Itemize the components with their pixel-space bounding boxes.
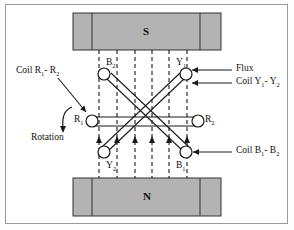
- south-pole-label: S: [143, 26, 149, 37]
- coil-r-leader: [58, 78, 86, 112]
- coil-r1-r2-annotation: Coil R1- R2: [16, 66, 59, 77]
- coil-r1-r2: [93, 117, 197, 126]
- terminal-b1-label: B1: [176, 161, 186, 172]
- figure-container: S N B2 Y1 Y2 B1 R1 R2 Coil R1- R2 Flux C…: [0, 0, 294, 230]
- rotation-arrow: [63, 107, 72, 128]
- terminal-r2-circle: [192, 115, 204, 127]
- terminal-b1-circle: [180, 146, 192, 158]
- flux-annotation: Flux: [236, 64, 253, 74]
- terminal-y1-circle: [180, 68, 192, 80]
- coil-b1-b2-annotation: Coil B1- B2: [236, 146, 279, 157]
- terminal-r1-label: R1: [74, 115, 84, 126]
- terminal-b2-label: B2: [106, 58, 116, 69]
- terminal-r2-label: R2: [205, 115, 215, 126]
- coil-y1-y2-annotation: Coil Y1- Y2: [236, 77, 280, 88]
- north-pole-label: N: [143, 191, 151, 202]
- terminal-b2-circle: [98, 68, 110, 80]
- rotation-annotation: Rotation: [31, 133, 64, 143]
- terminal-y2-label: Y2: [106, 161, 116, 172]
- coil-y1-y2: [102, 73, 185, 152]
- terminal-y1-label: Y1: [176, 58, 186, 69]
- terminal-r1-circle: [86, 115, 98, 127]
- terminal-y2-circle: [98, 146, 110, 158]
